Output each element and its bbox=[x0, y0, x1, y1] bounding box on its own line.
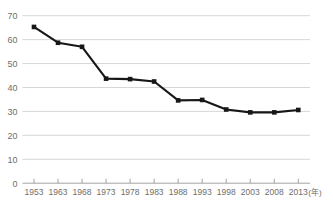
x-axis-unit-label: (年) bbox=[308, 187, 322, 197]
y-axis-tick-label: 60 bbox=[7, 35, 17, 45]
data-point-marker bbox=[152, 79, 157, 84]
x-axis-tick-label: 1973 bbox=[97, 187, 116, 197]
x-axis-tick-label: 1953 bbox=[25, 187, 44, 197]
data-point-marker bbox=[176, 98, 181, 103]
y-axis-tick-label: 50 bbox=[7, 59, 17, 69]
y-axis-tick-label: 20 bbox=[7, 131, 17, 141]
y-axis-tick-label: 0 bbox=[12, 179, 17, 189]
data-point-marker bbox=[32, 25, 37, 30]
x-axis-tick-label: 1978 bbox=[121, 187, 140, 197]
x-axis-tick-marks bbox=[34, 179, 298, 184]
y-axis-tick-label: 30 bbox=[7, 107, 17, 117]
chart-canvas: 010203040506070 195319631968197319781983… bbox=[0, 0, 333, 210]
data-point-marker bbox=[224, 107, 229, 112]
x-axis-tick-label: 1968 bbox=[73, 187, 92, 197]
x-axis-tick-label: 1993 bbox=[193, 187, 212, 197]
data-point-marker bbox=[248, 110, 253, 115]
x-axis-tick-label: 1963 bbox=[49, 187, 68, 197]
y-axis-tick-label: 10 bbox=[7, 155, 17, 165]
x-axis-tick-label: 1988 bbox=[169, 187, 188, 197]
data-point-marker bbox=[104, 76, 109, 81]
y-axis-tick-label: 70 bbox=[7, 11, 17, 21]
data-point-marker bbox=[80, 45, 85, 50]
gridlines bbox=[23, 16, 311, 184]
y-axis-tick-label: 40 bbox=[7, 83, 17, 93]
x-axis-tick-labels: 1953196319681973197819831988199319982003… bbox=[25, 187, 308, 197]
x-axis-tick-label: 1998 bbox=[217, 187, 236, 197]
y-axis-tick-labels: 010203040506070 bbox=[7, 11, 17, 189]
line-chart: 010203040506070 195319631968197319781983… bbox=[0, 0, 333, 210]
data-point-marker bbox=[296, 108, 301, 113]
x-axis-tick-label: 2013 bbox=[289, 187, 308, 197]
x-axis-tick-label: 2008 bbox=[265, 187, 284, 197]
data-point-marker bbox=[56, 40, 61, 45]
data-point-marker bbox=[272, 110, 277, 115]
data-point-marker bbox=[200, 98, 205, 103]
x-axis-tick-label: 2003 bbox=[241, 187, 260, 197]
data-point-marker bbox=[128, 77, 133, 82]
x-axis-tick-label: 1983 bbox=[145, 187, 164, 197]
data-point-markers bbox=[32, 25, 301, 115]
